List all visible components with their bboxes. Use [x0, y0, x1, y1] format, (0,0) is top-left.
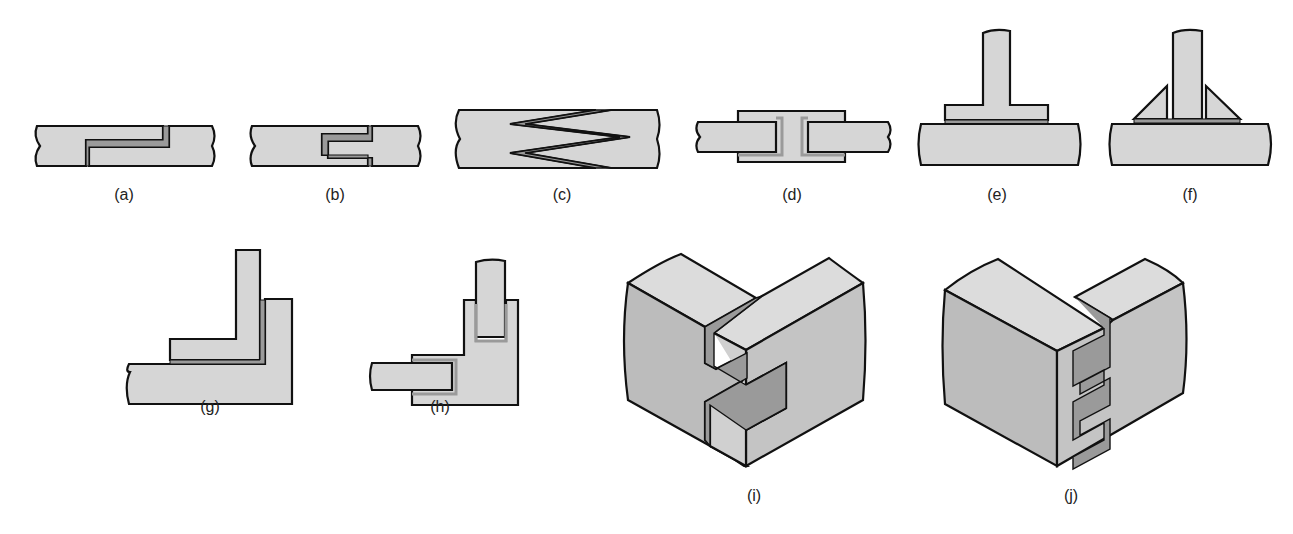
panel-label-g: (g): [200, 398, 220, 416]
panel-j-drawing: [943, 259, 1187, 469]
panel-label-a: (a): [114, 186, 134, 204]
panel-e-drawing: [919, 30, 1081, 165]
panel-label-b: (b): [325, 186, 345, 204]
panel-f-drawing: [1110, 30, 1272, 165]
panel-label-h: (h): [430, 398, 450, 416]
panel-label-j: (j): [1064, 487, 1078, 505]
panel-a-drawing: [36, 126, 215, 166]
panel-d-drawing: [696, 111, 890, 162]
panel-label-i: (i): [747, 487, 761, 505]
joint-diagram: [0, 0, 1293, 534]
panel-label-f: (f): [1182, 186, 1197, 204]
panel-c-drawing: [456, 110, 660, 168]
panel-label-e: (e): [987, 186, 1007, 204]
panel-b-drawing: [251, 126, 421, 166]
panel-label-d: (d): [782, 186, 802, 204]
panel-g-drawing: [127, 250, 292, 404]
panel-label-c: (c): [553, 186, 572, 204]
panel-h-drawing: [370, 260, 518, 405]
panel-i-drawing: [624, 254, 866, 466]
